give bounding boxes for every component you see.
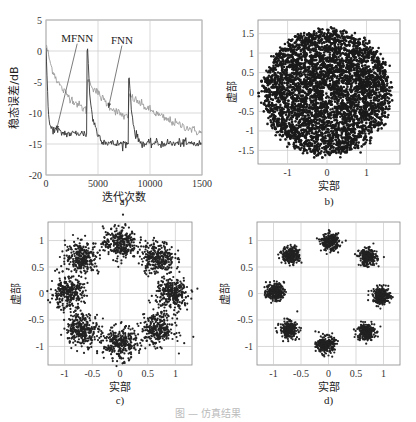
- y-tick-label: 1: [39, 235, 44, 246]
- annotation-mfnn: MFNN: [61, 32, 93, 44]
- x-tick-label: 0.5: [350, 368, 363, 379]
- x-axis-label: 实部: [318, 380, 340, 394]
- y-tick-label: -0.5: [238, 106, 254, 117]
- x-tick-label: -0.5: [84, 368, 100, 379]
- panel-b-constellation: -1011.510.50-0.5-1-1.5实部虚部b): [225, 20, 400, 208]
- subfigure-caption: a): [120, 195, 129, 208]
- y-tick-label: 1.5: [242, 28, 255, 39]
- y-axis-label: 虚部: [9, 283, 23, 305]
- x-tick-label: -1: [60, 368, 68, 379]
- y-tick-label: 1: [248, 235, 253, 246]
- y-tick-label: -1: [245, 341, 253, 352]
- x-tick-label: 0: [326, 368, 331, 379]
- figure-caption: 图 — 仿真结果: [175, 407, 241, 419]
- y-tick-label: -15: [29, 139, 42, 150]
- annotation-fnn: FNN: [111, 34, 133, 46]
- x-tick-label: 1: [381, 368, 386, 379]
- y-tick-label: -20: [29, 170, 42, 181]
- x-axis-label: 实部: [318, 179, 340, 193]
- y-tick-label: -0.5: [28, 314, 44, 325]
- y-tick-label: -1: [246, 125, 254, 136]
- subfigure-caption: d): [324, 394, 334, 407]
- x-axis-label: 实部: [109, 380, 131, 394]
- y-tick-label: 0: [37, 46, 42, 57]
- y-axis-label: 稳态误差/dB: [7, 66, 21, 128]
- y-tick-label: -0.5: [237, 314, 253, 325]
- x-tick-label: 5000: [88, 178, 108, 189]
- y-tick-label: 0: [39, 288, 44, 299]
- x-tick-label: 10000: [138, 178, 163, 189]
- y-tick-label: 0: [249, 87, 254, 98]
- y-tick-label: 0.5: [241, 262, 254, 273]
- panel-c-constellation: -1-0.500.5110.50-0.5-1实部虚部c): [9, 214, 199, 407]
- x-tick-label: 1500: [192, 178, 212, 189]
- y-axis-label: 虚部: [218, 283, 232, 305]
- y-tick-label: -5: [34, 77, 42, 88]
- panel-d-constellation: -1-0.500.5110.50-0.5-1实部虚部d): [218, 222, 400, 407]
- x-tick-label: 0: [118, 368, 123, 379]
- y-tick-label: 0.5: [32, 262, 45, 273]
- x-tick-label: -1: [269, 368, 277, 379]
- x-tick-label: 1: [173, 368, 178, 379]
- y-axis-label: 虚部: [225, 81, 239, 103]
- y-tick-label: 0: [248, 288, 253, 299]
- y-tick-label: -1: [36, 341, 44, 352]
- x-tick-label: 0.5: [141, 368, 154, 379]
- x-tick-label: 0: [44, 178, 49, 189]
- figure: 0500010000150050-5-10-15-20迭代次数稳态误差/dBa)…: [0, 0, 416, 422]
- x-tick-label: 1: [364, 167, 369, 178]
- y-tick-label: 5: [37, 15, 42, 26]
- x-tick-label: -0.5: [293, 368, 309, 379]
- y-tick-label: -10: [29, 108, 42, 119]
- panel-a-error-curve: 0500010000150050-5-10-15-20迭代次数稳态误差/dBa)…: [7, 15, 212, 209]
- y-tick-label: 0.5: [242, 67, 255, 78]
- subfigure-caption: b): [324, 195, 334, 208]
- y-tick-label: -1.5: [238, 145, 254, 156]
- x-tick-label: 0: [325, 167, 330, 178]
- x-tick-label: -1: [283, 167, 291, 178]
- y-tick-label: 1: [249, 48, 254, 59]
- subfigure-caption: c): [116, 394, 125, 407]
